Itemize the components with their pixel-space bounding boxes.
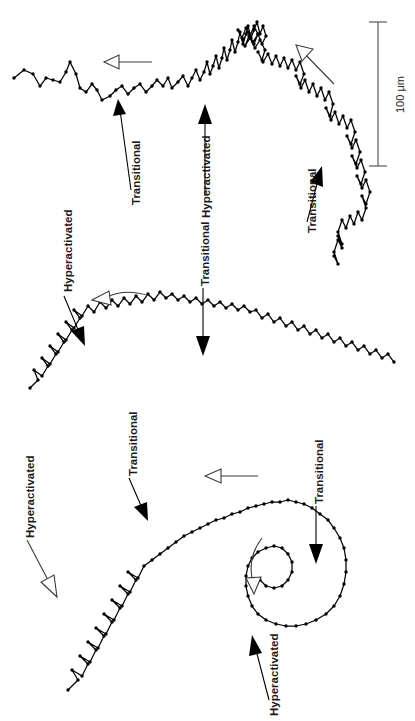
track-point	[344, 570, 347, 573]
track-point	[340, 242, 343, 245]
label-hyperactivated-middle: Hyperactivated	[62, 210, 74, 292]
track-point	[274, 622, 277, 625]
track-point	[336, 262, 339, 265]
track-point	[359, 182, 362, 185]
track-point	[340, 246, 343, 249]
track-point	[134, 294, 137, 297]
track-point	[284, 324, 287, 327]
track-point	[368, 190, 371, 193]
scale-bar	[369, 22, 387, 166]
track-point	[230, 302, 233, 305]
scale-bar-label: 100 μm	[394, 76, 406, 113]
track-point	[238, 510, 241, 513]
track-point	[78, 86, 81, 89]
track-point	[308, 332, 311, 335]
track-point	[56, 350, 59, 353]
track-point	[150, 558, 153, 561]
track-point	[40, 356, 43, 359]
track-point	[349, 118, 352, 121]
track-point	[314, 328, 317, 331]
track-point	[104, 632, 107, 635]
track-point	[142, 564, 145, 567]
track-point	[122, 296, 125, 299]
track-point	[328, 114, 331, 117]
track-point	[228, 48, 231, 51]
track-point	[68, 60, 71, 63]
track-point	[340, 218, 343, 221]
track-point	[48, 362, 51, 365]
track-point	[338, 536, 341, 539]
track-point	[320, 336, 323, 339]
track-point	[294, 68, 297, 71]
track-point	[386, 352, 389, 355]
track-point	[380, 356, 383, 359]
track-point	[261, 24, 264, 27]
label-hyperactivated-top: Hyperactivated	[200, 136, 212, 218]
track-point	[116, 304, 119, 307]
track-point	[12, 76, 15, 79]
track-point	[348, 214, 351, 217]
track-point	[368, 352, 371, 355]
track-point	[80, 674, 83, 677]
track-point	[318, 512, 321, 515]
track-point	[294, 500, 297, 503]
track-point	[206, 522, 209, 525]
track-point	[302, 72, 305, 75]
track-point	[286, 578, 289, 581]
track-point	[158, 552, 161, 555]
track-point	[290, 58, 293, 61]
track-point	[336, 230, 339, 233]
track-point	[280, 584, 283, 587]
track-point	[214, 54, 217, 57]
track-point	[136, 576, 139, 579]
track-point	[362, 344, 365, 347]
track-point	[350, 340, 353, 343]
track-point	[126, 570, 129, 573]
track-point	[256, 50, 259, 53]
track-point	[338, 336, 341, 339]
track-point	[90, 82, 93, 85]
track-point	[272, 586, 275, 589]
track-point	[307, 90, 310, 93]
track-point	[298, 60, 301, 63]
track-point	[286, 66, 289, 69]
track-point	[78, 654, 81, 657]
track-point	[44, 76, 47, 79]
track-point	[108, 94, 111, 97]
track-point	[176, 298, 179, 301]
track-point	[48, 344, 51, 347]
track-point	[282, 56, 285, 59]
track-point	[256, 32, 259, 35]
track-point	[236, 40, 239, 43]
track-point	[337, 122, 340, 125]
track-point	[278, 316, 281, 319]
track-point	[181, 74, 184, 77]
track-point	[144, 90, 147, 93]
track-point	[155, 78, 158, 81]
pointer-hyperactivated-bottom-left	[27, 540, 57, 597]
track-point	[280, 546, 283, 549]
track-point	[188, 300, 191, 303]
track-point	[64, 320, 67, 323]
track-point	[212, 304, 215, 307]
track-point	[338, 594, 341, 597]
track-point	[360, 194, 363, 197]
track-point	[286, 498, 289, 501]
track-point	[40, 374, 43, 377]
track-canvas	[0, 0, 415, 721]
track-point	[363, 170, 366, 173]
label-transitional-middle: Transitional	[199, 221, 211, 286]
track-point	[128, 302, 131, 305]
track-point	[170, 86, 173, 89]
track-point	[256, 612, 259, 615]
track-point	[244, 574, 247, 577]
track-point	[332, 250, 335, 253]
track-point	[58, 80, 61, 83]
track-point	[222, 46, 225, 49]
track-point	[236, 308, 239, 311]
track-point	[332, 604, 335, 607]
track-point	[152, 298, 155, 301]
track-point	[161, 84, 164, 87]
track-point	[86, 304, 89, 307]
track-point	[88, 660, 91, 663]
